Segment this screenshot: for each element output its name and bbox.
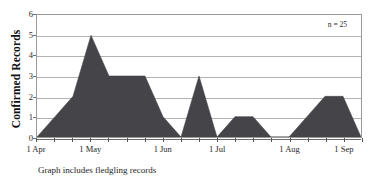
plot-area: n = 25 [36,14,362,138]
y-tick-label-5: 5 [20,31,33,40]
x-tick-label-1-sep: 1 Sep [334,144,353,154]
x-tick-mark [108,138,109,142]
chart-title [0,0,368,7]
x-tick-mark [199,138,200,142]
y-tick-label-2: 2 [20,93,33,102]
x-tick-label-1-aug: 1 Aug [279,144,300,154]
x-tick-mark [217,138,218,142]
x-tick-mark [271,138,272,142]
x-tick-mark [308,138,309,142]
x-tick-mark [290,138,291,142]
area-polygon [37,35,361,137]
y-axis-tick-labels: 0123456 [20,14,33,138]
x-tick-mark [163,138,164,142]
x-tick-mark [326,138,327,142]
y-tick-label-4: 4 [20,51,33,60]
x-tick-mark [36,138,37,142]
x-tick-mark [90,138,91,142]
y-tick-label-0: 0 [20,134,33,143]
x-tick-mark [54,138,55,142]
area-series-confirmed-records [37,15,361,137]
figure-caption: Graph includes fledgling records [38,165,156,176]
y-tick-label-1: 1 [20,113,33,122]
x-tick-mark [235,138,236,142]
x-tick-mark [253,138,254,142]
x-tick-mark [72,138,73,142]
chart-figure: Confirmed Records 0123456 n = 25 1 Apr1 … [0,0,368,180]
x-tick-label-1-jun: 1 Jun [154,144,172,154]
x-tick-mark [362,138,363,142]
x-axis-tick-labels: 1 Apr1 May1 Jun1 Jul1 Aug1 Sep [0,144,368,156]
x-tick-label-1-jul: 1 Jul [209,144,225,154]
x-tick-label-1-apr: 1 Apr [26,144,45,154]
sample-size-annotation: n = 25 [328,20,347,29]
x-tick-label-1-may: 1 May [79,144,101,154]
x-tick-mark [344,138,345,142]
x-tick-mark [145,138,146,142]
x-axis-tick-marks [36,138,362,143]
x-tick-mark [181,138,182,142]
x-tick-mark [127,138,128,142]
y-tick-label-3: 3 [20,72,33,81]
y-tick-label-6: 6 [20,10,33,19]
